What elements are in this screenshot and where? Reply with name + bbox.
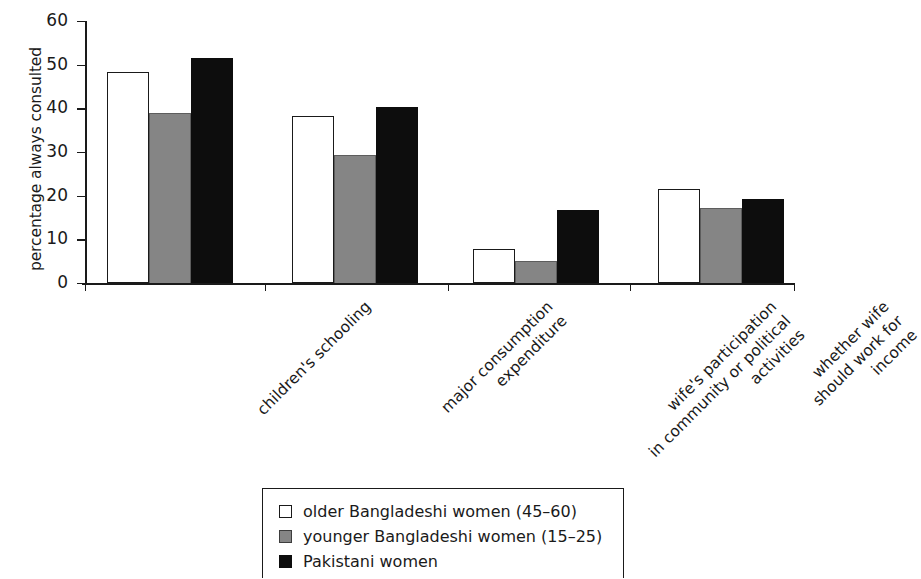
bar — [658, 189, 700, 283]
plot-area: 0102030405060 — [85, 21, 795, 283]
legend-swatch-icon — [279, 505, 292, 518]
bar — [473, 249, 515, 283]
x-axis-tick — [85, 283, 86, 291]
bar — [700, 208, 742, 284]
x-axis-tick — [448, 283, 449, 291]
y-axis-tick-label: 20 — [46, 184, 68, 206]
bar — [557, 210, 599, 283]
y-axis-tick-label: 10 — [46, 227, 68, 249]
y-axis-tick: 30 — [77, 152, 85, 153]
bar — [149, 113, 191, 283]
legend: older Bangladeshi women (45–60)younger B… — [262, 488, 624, 578]
bar — [107, 72, 149, 283]
y-axis-tick-label: 30 — [46, 140, 68, 162]
category-label-line: children's schooling — [253, 297, 375, 419]
y-axis-tick: 0 — [77, 283, 85, 284]
x-axis-tick — [794, 283, 795, 291]
bar — [742, 199, 784, 283]
legend-swatch-icon — [279, 555, 292, 568]
legend-label: Pakistani women — [303, 552, 438, 572]
legend-item[interactable]: younger Bangladeshi women (15–25) — [279, 524, 623, 549]
y-axis-tick: 10 — [77, 239, 85, 240]
legend-label: younger Bangladeshi women (15–25) — [303, 527, 602, 547]
x-axis-category-label: wife's participationin community or poli… — [630, 297, 809, 476]
y-axis-tick: 40 — [77, 108, 85, 109]
bar — [376, 107, 418, 283]
y-axis-tick-label: 40 — [46, 96, 68, 118]
y-axis-tick-label: 60 — [46, 9, 68, 31]
legend-label: older Bangladeshi women (45–60) — [303, 502, 577, 522]
y-axis-tick: 20 — [77, 196, 85, 197]
x-axis-line — [82, 283, 795, 285]
y-axis-tick-label: 0 — [57, 271, 68, 293]
legend-swatch-icon — [279, 530, 292, 543]
x-axis-tick — [265, 283, 266, 291]
y-axis-tick: 60 — [77, 21, 85, 22]
x-axis-category-label: children's schooling — [253, 297, 375, 419]
legend-item[interactable]: Pakistani women — [279, 549, 623, 574]
bar — [191, 58, 233, 283]
x-axis-category-label: whether wifeshould work forincome — [794, 297, 921, 424]
bar — [515, 261, 557, 283]
y-axis-tick: 50 — [77, 65, 85, 66]
bar — [292, 116, 334, 283]
x-axis-tick — [630, 283, 631, 291]
y-axis-line — [85, 21, 87, 283]
y-axis-title: percentage always consulted — [27, 19, 45, 299]
y-axis-tick-label: 50 — [46, 53, 68, 75]
legend-item[interactable]: older Bangladeshi women (45–60) — [279, 499, 623, 524]
bar — [334, 155, 376, 283]
x-axis-category-label: major consumptionexpenditure — [437, 297, 571, 431]
category-label-line: in community or political — [645, 311, 795, 461]
